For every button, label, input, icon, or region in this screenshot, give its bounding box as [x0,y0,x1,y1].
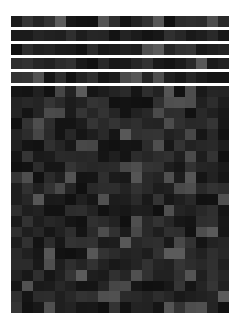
mosaic-cell [185,86,196,97]
mosaic-cell [120,97,131,108]
mosaic-cell [164,227,175,238]
mosaic-cell [109,162,120,173]
mosaic-cell [164,291,175,302]
mosaic-cell [120,30,131,41]
mosaic-cell [164,216,175,227]
mosaic-cell [174,302,185,313]
mosaic-cell [153,291,164,302]
mosaic-cell [65,183,76,194]
mosaic-cell [22,16,33,27]
mosaic-cell [207,16,218,27]
mosaic-strip [11,30,229,41]
mosaic-cell [98,129,109,140]
mosaic-cell [185,108,196,119]
mosaic-cell [33,227,44,238]
mosaic-cell [196,291,207,302]
mosaic-cell [207,281,218,292]
mosaic-cell [196,227,207,238]
mosaic-cell [142,72,153,83]
mosaic-cell [22,248,33,259]
mosaic-cell [153,140,164,151]
mosaic-cell [131,97,142,108]
mosaic-cell [55,86,66,97]
mosaic-cell [164,237,175,248]
mosaic-cell [207,183,218,194]
mosaic-cell [218,227,229,238]
mosaic-cell [142,259,153,270]
mosaic-cell [131,151,142,162]
mosaic-cell [22,44,33,55]
mosaic-cell [33,172,44,183]
mosaic-cell [153,237,164,248]
mosaic-cell [164,44,175,55]
mosaic-cell [207,248,218,259]
mosaic-cell [76,194,87,205]
mosaic-cell [109,58,120,69]
mosaic-cell [120,16,131,27]
mosaic-cell [174,259,185,270]
mosaic-cell [142,172,153,183]
mosaic-cell [185,291,196,302]
mosaic-cell [109,281,120,292]
mosaic-cell [153,302,164,313]
mosaic-cell [153,205,164,216]
mosaic-cell [207,302,218,313]
mosaic-cell [55,72,66,83]
mosaic-cell [87,172,98,183]
mosaic-cell [55,281,66,292]
mosaic-cell [55,140,66,151]
mosaic-cell [44,151,55,162]
mosaic-cell [218,86,229,97]
mosaic-cell [196,205,207,216]
mosaic-cell [65,108,76,119]
mosaic-cell [153,97,164,108]
mosaic-cell [164,162,175,173]
mosaic-cell [196,302,207,313]
mosaic-cell [55,97,66,108]
mosaic-cell [153,183,164,194]
mosaic-cell [164,30,175,41]
mosaic-cell [185,97,196,108]
mosaic-cell [76,183,87,194]
mosaic-cell [120,270,131,281]
mosaic-cell [22,205,33,216]
mosaic-cell [65,248,76,259]
mosaic-cell [98,151,109,162]
mosaic-cell [142,86,153,97]
mosaic-cell [22,30,33,41]
mosaic-cell [218,129,229,140]
mosaic-cell [218,162,229,173]
mosaic-cell [76,259,87,270]
mosaic-cell [33,129,44,140]
mosaic-cell [142,183,153,194]
mosaic-cell [142,129,153,140]
mosaic-cell [164,118,175,129]
mosaic-cell [55,205,66,216]
mosaic-cell [33,140,44,151]
mosaic-cell [185,281,196,292]
mosaic-cell [142,281,153,292]
mosaic-cell [76,172,87,183]
mosaic-grid [11,86,229,313]
mosaic-cell [142,302,153,313]
mosaic-cell [164,194,175,205]
mosaic-cell [76,216,87,227]
mosaic-cell [142,44,153,55]
mosaic-cell [76,129,87,140]
mosaic-strip [11,58,229,69]
mosaic-cell [207,44,218,55]
mosaic-cell [33,72,44,83]
mosaic-cell [185,237,196,248]
mosaic-cell [44,248,55,259]
mosaic-cell [131,140,142,151]
mosaic-cell [11,30,22,41]
mosaic-cell [44,30,55,41]
mosaic-cell [98,259,109,270]
mosaic-cell [185,183,196,194]
mosaic-cell [164,58,175,69]
mosaic-cell [120,72,131,83]
mosaic-cell [174,162,185,173]
mosaic-cell [76,237,87,248]
mosaic-cell [218,44,229,55]
mosaic-cell [196,237,207,248]
